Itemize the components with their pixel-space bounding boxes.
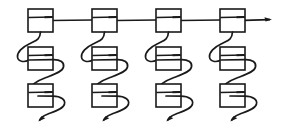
chain-column-0 (17, 9, 64, 122)
node-box (92, 9, 117, 32)
node-middle-col1 (92, 47, 117, 70)
spine-segment-2-3 (180, 20, 221, 21)
diagram-canvas: Chained node structure diagram (0, 0, 282, 133)
node-middle-col2 (156, 47, 181, 70)
node-box (220, 9, 245, 32)
spine-segment-0-1 (51, 20, 93, 21)
node-box (92, 47, 117, 70)
node-head-col3 (220, 9, 245, 32)
chain-column-1 (81, 9, 128, 122)
spine-segment-1-2 (116, 20, 157, 21)
node-head-col1 (92, 9, 117, 32)
chain-column-2 (145, 9, 192, 122)
spine-right-arrowhead (265, 17, 273, 21)
node-middle-col0 (28, 47, 53, 70)
node-box (156, 9, 181, 32)
node-box (28, 47, 53, 70)
node-head-col0 (28, 9, 53, 32)
node-box (156, 47, 181, 70)
node-head-col2 (156, 9, 181, 32)
node-box (220, 47, 245, 70)
node-middle-col3 (220, 47, 245, 70)
chain-column-3 (209, 9, 256, 122)
node-box (28, 9, 53, 32)
linked-structure-diagram: Chained node structure diagram (0, 0, 282, 133)
